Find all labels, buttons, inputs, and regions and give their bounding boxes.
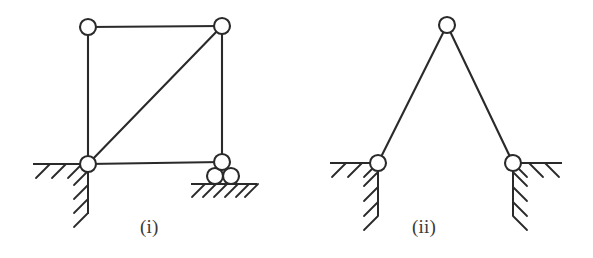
hatch-marks-horizontal	[36, 164, 82, 178]
figure-label-ii: (ii)	[412, 216, 436, 238]
member-bottom-chord	[88, 162, 222, 164]
hatch-marks-vertical	[513, 172, 527, 230]
hatch-marks-vertical	[364, 172, 378, 230]
node-top-left	[80, 19, 96, 35]
node-apex	[439, 17, 455, 33]
roller-circle-right	[223, 168, 239, 184]
figure-i	[33, 18, 258, 227]
member-left-bar	[378, 25, 447, 163]
figure-ii-members	[378, 25, 513, 163]
node-bottom-left	[80, 156, 96, 172]
structural-diagram-canvas	[0, 0, 593, 258]
node-bottom-right	[214, 154, 230, 170]
member-diagonal-brace	[88, 26, 222, 164]
figure-label-i: (i)	[140, 216, 159, 238]
node-left-base	[370, 155, 386, 171]
hatch-marks-horizontal	[192, 184, 258, 197]
figure-ii-nodes	[370, 17, 521, 171]
figure-ii	[330, 17, 562, 230]
roller-support-right-i	[191, 168, 258, 197]
member-top-chord	[88, 26, 222, 27]
node-top-right	[214, 18, 230, 34]
member-right-bar	[447, 25, 513, 163]
figure-i-members	[88, 26, 222, 164]
hatch-marks-vertical	[74, 171, 88, 227]
node-right-base	[505, 155, 521, 171]
